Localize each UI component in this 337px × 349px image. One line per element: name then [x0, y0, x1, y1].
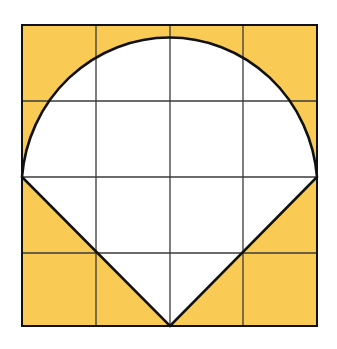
shaded-region-diagram: [0, 0, 337, 349]
